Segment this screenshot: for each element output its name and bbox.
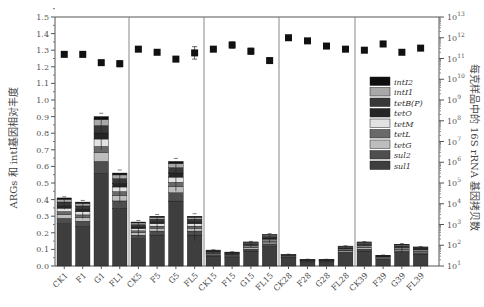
y-tick-label: 0.9: [36, 113, 49, 122]
x-tick-label: F1: [74, 271, 88, 285]
16s-marker: [229, 42, 236, 49]
bar-segment-sul2: [262, 244, 277, 247]
x-tick-label: FL39: [405, 271, 426, 292]
x-tick-label: CK1: [51, 271, 70, 290]
y-tick-label: 0.6: [36, 162, 49, 171]
16s-marker: [154, 49, 161, 56]
y2-tick-label: 1012: [447, 31, 465, 43]
y-tick-label: 0.2: [36, 229, 49, 238]
bar-segment-sul1: [395, 253, 410, 266]
16s-marker: [285, 34, 292, 41]
bar-segment-sul2: [357, 249, 372, 251]
y2-tick-label: 109: [447, 93, 461, 105]
legend-swatch: [370, 98, 390, 107]
x-tick-label: F39: [371, 271, 388, 288]
16s-marker: [191, 49, 198, 56]
legend-label: tetL: [394, 130, 410, 139]
16s-marker: [210, 46, 217, 53]
16s-marker: [266, 57, 273, 64]
legend-swatch: [370, 119, 390, 128]
x-tick-label: G5: [167, 271, 181, 285]
bar-segment-sul1: [281, 259, 296, 266]
bar-segment-sul2: [244, 249, 259, 251]
legend-label: sul1: [394, 162, 411, 171]
16s-marker: [247, 48, 254, 55]
legend-swatch: [370, 109, 390, 118]
x-tick-label: G1: [92, 271, 106, 285]
y-tick-label: 0.8: [36, 129, 49, 138]
y-tick-label: 1.1: [36, 79, 49, 88]
y-tick-label: 0.1: [36, 245, 49, 254]
y-tick-label: 0.3: [36, 212, 49, 221]
bar-segment-tetG: [244, 248, 259, 249]
y2-tick-label: 108: [447, 114, 461, 126]
16s-marker: [417, 45, 424, 52]
legend-swatch: [370, 140, 390, 149]
x-tick-label: CK15: [197, 271, 219, 293]
y-tick-label: 0.4: [36, 196, 49, 205]
y-axis-left-label: ARGs 和 intI基因相对丰度: [5, 58, 20, 238]
16s-marker: [304, 37, 311, 44]
16s-marker: [116, 60, 123, 67]
bar-segment-sul1: [262, 246, 277, 266]
y-tick-label: 0.7: [36, 146, 49, 155]
legend-swatch: [370, 161, 390, 170]
legend-swatch: [370, 130, 390, 139]
y-tick-label: 0.0: [36, 262, 49, 271]
16s-marker: [342, 46, 349, 53]
y-tick-label: 1.4: [36, 30, 49, 39]
y-tick-label: 0.5: [36, 179, 49, 188]
bar-segment-sul1: [57, 224, 71, 266]
16s-marker: [323, 43, 330, 50]
bar-segment-sul1: [413, 254, 428, 266]
bar-segment-sul1: [338, 254, 353, 266]
16s-marker: [398, 49, 405, 56]
16s-marker: [79, 51, 86, 58]
y-tick-label: 1.2: [36, 63, 49, 72]
bar-segment-sul1: [357, 251, 372, 266]
stacked-bar-chart: 0.00.10.20.30.40.50.60.70.80.91.01.11.21…: [0, 0, 484, 307]
y2-tick-label: 1011: [447, 52, 465, 64]
bar-segment-tetG: [94, 152, 108, 161]
bar-segment-sul1: [244, 251, 259, 266]
bar-segment-tetG: [57, 214, 71, 218]
bar-segment-sul1: [225, 257, 240, 266]
x-tick-label: F5: [149, 271, 163, 285]
y2-tick-label: 1013: [447, 10, 465, 22]
16s-marker: [98, 59, 105, 66]
bar-segment-sul2: [76, 221, 90, 226]
legend-swatch: [370, 77, 390, 86]
bar-segment-sul2: [169, 193, 184, 201]
legend-label: tetM: [394, 120, 414, 129]
y2-tick-label: 1010: [447, 72, 465, 84]
bar-segment-sul1: [131, 239, 146, 266]
bar-segment-sul1: [169, 201, 184, 266]
bar-segment-sul1: [150, 235, 165, 266]
bar-segment-tetL: [57, 212, 71, 215]
16s-marker: [61, 51, 68, 58]
y2-tick-label: 106: [447, 155, 461, 167]
16s-marker: [172, 56, 179, 63]
x-tick-label: CK28: [272, 271, 294, 293]
x-tick-label: CK39: [348, 271, 370, 293]
y2-tick-label: 107: [447, 135, 461, 147]
bar-segment-tetG: [357, 248, 372, 249]
16s-marker: [361, 47, 368, 54]
x-tick-label: FL28: [330, 271, 351, 292]
x-tick-label: FL15: [254, 271, 275, 292]
bar-segment-sul1: [206, 256, 221, 266]
bar-segment-sul1: [376, 259, 391, 266]
bar-segment-sul1: [76, 226, 90, 266]
y-tick-label: 1.3: [36, 46, 49, 55]
legend-label: tetB(P): [394, 99, 423, 108]
16s-marker: [380, 40, 387, 47]
y2-tick-label: 105: [447, 176, 461, 188]
legend-swatch: [370, 151, 390, 160]
legend-label: intI1: [394, 88, 413, 97]
legend-label: tetG: [394, 141, 412, 150]
bar-segment-sul1: [113, 208, 127, 266]
x-tick-label: FL1: [108, 271, 126, 289]
bar-segment-sul2: [413, 253, 428, 255]
bar-segment-sul2: [94, 161, 108, 173]
legend-swatch: [370, 88, 390, 97]
